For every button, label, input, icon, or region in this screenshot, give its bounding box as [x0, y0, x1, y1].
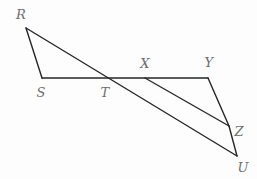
vertex-label-y: Y: [205, 56, 214, 69]
vertex-label-t: T: [101, 86, 110, 99]
vertex-label-s: S: [36, 86, 45, 99]
geometry-figure: RSTXYZU: [0, 0, 257, 179]
vertex-label-x: X: [140, 57, 149, 70]
vertex-label-z: Z: [234, 125, 243, 138]
vertex-label-u: U: [237, 161, 248, 174]
segment-RU-transversal: [26, 28, 237, 156]
segment-layer: [26, 28, 237, 156]
segment-YZ: [208, 78, 229, 126]
segment-XZ: [145, 78, 229, 126]
vertex-label-r: R: [16, 8, 26, 21]
